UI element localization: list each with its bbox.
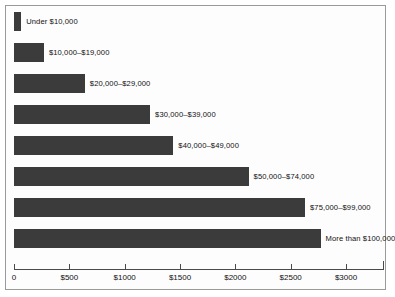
- x-axis-tick: [125, 264, 126, 270]
- bar: [14, 198, 305, 217]
- x-axis-tick: [291, 264, 292, 270]
- plot-area: Under $10,000 $10,000–$19,000 $20,000–$2…: [14, 12, 384, 264]
- x-axis-tick-label: $500: [60, 273, 78, 282]
- x-axis-tick-label: $2000: [224, 273, 246, 282]
- x-axis-tick: [235, 264, 236, 270]
- bar-row: $40,000–$49,000: [14, 136, 239, 155]
- bar: [14, 43, 44, 62]
- bar-label: More than $100,000: [326, 234, 395, 243]
- bar-label: $50,000–$74,000: [254, 172, 315, 181]
- bar: [14, 229, 321, 248]
- bar-row: $10,000–$19,000: [14, 43, 110, 62]
- bar: [14, 105, 150, 124]
- x-axis-tick: [346, 264, 347, 270]
- x-axis-tick: [69, 264, 70, 270]
- x-axis-end-cap: [383, 261, 384, 270]
- bar-label: $30,000–$39,000: [155, 110, 216, 119]
- bar: [14, 12, 21, 31]
- bar-label: $40,000–$49,000: [178, 141, 239, 150]
- bar: [14, 74, 85, 93]
- x-axis-tick-label: $3000: [335, 273, 357, 282]
- bar: [14, 167, 249, 186]
- x-axis-tick: [14, 264, 15, 270]
- bar-label: $75,000–$99,000: [310, 203, 371, 212]
- bar-label: $20,000–$29,000: [90, 79, 151, 88]
- x-axis-tick: [180, 264, 181, 270]
- x-axis-tick-label: $1000: [114, 273, 136, 282]
- bar-row: Under $10,000: [14, 12, 78, 31]
- bar-label: Under $10,000: [26, 17, 78, 26]
- x-axis-tick-label: 0: [12, 273, 16, 282]
- bar-row: $30,000–$39,000: [14, 105, 216, 124]
- bar: [14, 136, 173, 155]
- bar-row: More than $100,000: [14, 229, 395, 248]
- bar-label: $10,000–$19,000: [49, 48, 110, 57]
- bar-row: $50,000–$74,000: [14, 167, 314, 186]
- chart-frame: Under $10,000 $10,000–$19,000 $20,000–$2…: [5, 5, 386, 290]
- x-axis-tick-label: $1500: [169, 273, 191, 282]
- x-axis-tick-label: $2500: [280, 273, 302, 282]
- bar-row: $20,000–$29,000: [14, 74, 150, 93]
- bar-row: $75,000–$99,000: [14, 198, 371, 217]
